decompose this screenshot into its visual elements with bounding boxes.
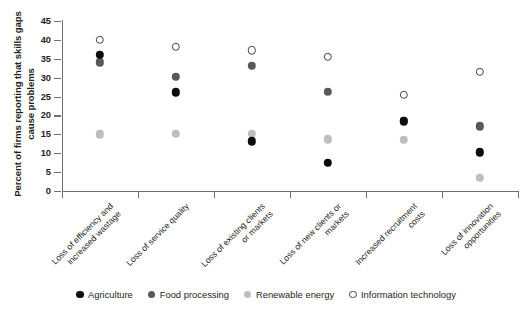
data-point <box>476 174 484 182</box>
data-point <box>96 58 104 66</box>
y-axis-tick <box>54 97 61 98</box>
data-point <box>248 137 256 145</box>
x-axis-category-label: Loss of existing clientsor markets <box>199 201 276 278</box>
legend-label: Renewable energy <box>256 289 334 300</box>
x-axis-category-label: Loss of efficiency andincreased wastage <box>50 201 124 275</box>
chart-figure: Percent of firms reporting that skills g… <box>0 0 532 311</box>
legend-item[interactable]: Information technology <box>349 289 456 300</box>
data-point <box>476 122 484 130</box>
x-axis-category-label: Loss of new clients ormarkets <box>278 201 353 276</box>
y-axis-tick-label: 35 <box>41 54 51 64</box>
data-point <box>172 43 180 51</box>
data-point <box>172 88 180 96</box>
data-point <box>324 52 332 60</box>
y-axis-tick-label: 45 <box>41 16 51 26</box>
legend-marker-icon <box>349 291 356 298</box>
x-axis-tick <box>290 191 291 198</box>
legend-label: Food processing <box>160 289 229 300</box>
data-point <box>324 135 332 143</box>
data-point <box>172 72 180 80</box>
y-axis-tick-label: 40 <box>41 35 51 45</box>
data-point <box>324 158 332 166</box>
legend-marker-icon <box>148 291 155 298</box>
y-axis-tick <box>54 40 61 41</box>
x-axis-tick <box>442 191 443 198</box>
data-point <box>400 117 408 125</box>
x-axis-tick <box>214 191 215 198</box>
y-axis-tick <box>54 78 61 79</box>
legend-marker-icon <box>76 291 83 298</box>
x-axis-tick <box>62 191 63 198</box>
data-point <box>96 51 104 59</box>
data-point <box>248 46 256 54</box>
x-axis-tick <box>518 191 519 198</box>
y-axis-tick-label: 25 <box>41 92 51 102</box>
legend-item[interactable]: Agriculture <box>76 289 133 300</box>
y-axis-tick <box>54 59 61 60</box>
y-axis-tick <box>54 115 61 116</box>
y-axis-tick-label: 5 <box>46 167 51 177</box>
data-point <box>172 130 180 138</box>
data-point <box>248 61 256 69</box>
legend-marker-icon <box>244 291 251 298</box>
x-axis-category-label: Increased recruitmentcosts <box>353 201 428 276</box>
plot-area: 051015202530354045 <box>62 21 518 191</box>
y-axis-tick-label: 15 <box>41 129 51 139</box>
legend-label: Information technology <box>361 289 456 300</box>
x-axis-category-label: Loss of service quality <box>124 201 192 269</box>
legend-item[interactable]: Renewable energy <box>244 289 334 300</box>
y-axis-tick <box>54 191 61 192</box>
data-point <box>324 88 332 96</box>
data-point <box>476 68 484 76</box>
data-point <box>476 148 484 156</box>
data-point <box>96 130 104 138</box>
y-axis-tick-label: 20 <box>41 110 51 120</box>
y-axis-tick <box>54 21 61 22</box>
y-axis-title: Percent of firms reporting that skills g… <box>11 9 43 199</box>
y-axis-tick <box>54 172 61 173</box>
x-axis-category-label-line: Loss of service quality <box>124 201 192 269</box>
x-axis-tick <box>138 191 139 198</box>
chart-legend: AgricultureFood processingRenewable ener… <box>0 289 532 300</box>
y-axis-tick-label: 10 <box>41 148 51 158</box>
y-axis-tick-label: 30 <box>41 73 51 83</box>
y-axis-tick <box>54 153 61 154</box>
legend-item[interactable]: Food processing <box>148 289 229 300</box>
data-point <box>400 135 408 143</box>
y-axis-tick <box>54 134 61 135</box>
y-axis-tick-label: 0 <box>46 186 51 196</box>
data-point <box>400 90 408 98</box>
legend-label: Agriculture <box>88 289 133 300</box>
x-axis-tick <box>366 191 367 198</box>
data-point <box>96 35 104 43</box>
x-axis-category-label: Loss of innovationopportunities <box>439 201 504 266</box>
